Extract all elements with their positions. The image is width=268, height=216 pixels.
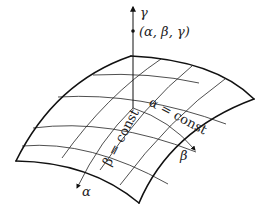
point-label: (α, β, γ)	[139, 24, 190, 39]
edge-bottom-left	[16, 161, 139, 203]
gamma-axis-label: γ	[140, 5, 148, 20]
grid-line-7	[22, 145, 168, 184]
grid-line-3	[120, 79, 225, 185]
edge-top-right	[131, 56, 254, 99]
alpha-axis-label: α	[82, 184, 91, 199]
point-marker	[131, 29, 135, 33]
grid-line-4	[93, 74, 199, 83]
curvilinear-surface-diagram: γ (α, β, γ) α β β = const α = const	[0, 0, 268, 216]
beta-const-label: β = const	[99, 106, 142, 169]
alpha-const-label: α = const	[147, 94, 211, 137]
edge-right-bottom	[139, 99, 254, 203]
beta-axis-label: β	[179, 148, 188, 163]
